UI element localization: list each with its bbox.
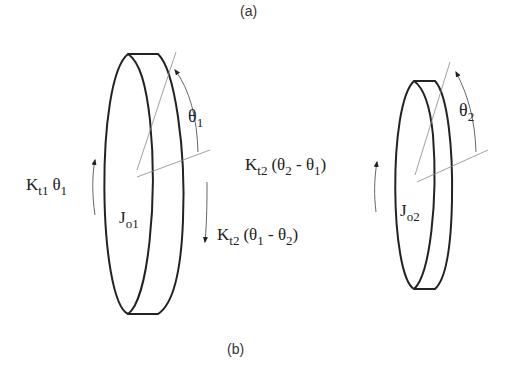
disk-1: θ1 Jo1 Kt1θ1 Kt2(θ1 - θ2) xyxy=(26,52,298,314)
caption-b: (b) xyxy=(227,341,244,357)
disk-1-rim xyxy=(128,54,183,314)
two-disk-torsion-diagram: (a) θ1 Jo1 Kt1θ1 Kt2(θ1 - θ2) θ2 Jo2 Kt2… xyxy=(0,0,506,372)
disk-2-front-face xyxy=(395,81,434,289)
torque-label-kt2-theta2-minus-theta1: Kt2(θ2 - θ1) xyxy=(245,155,326,178)
disk-2-inertia-label: Jo2 xyxy=(400,201,420,224)
torque-arrow-kt1 xyxy=(93,160,95,215)
disk-1-reference-line xyxy=(137,150,210,177)
torque-label-kt1-theta1: Kt1θ1 xyxy=(26,175,67,198)
disk-2-rim xyxy=(414,81,452,289)
disk-2: θ2 Jo2 Kt2(θ2 - θ1) xyxy=(245,62,488,289)
disk-1-radial-line xyxy=(137,52,176,170)
torque-label-kt2-theta1-minus-theta2: Kt2(θ1 - θ2) xyxy=(217,225,298,248)
disk-2-radial-line xyxy=(415,62,450,175)
disk-1-inertia-label: Jo1 xyxy=(119,208,139,231)
disk-1-front-face xyxy=(104,54,152,314)
torque-arrow-kt2-disk1 xyxy=(205,182,207,242)
torque-arrow-kt2-disk2 xyxy=(375,162,377,212)
caption-a: (a) xyxy=(240,3,257,19)
disk-2-angle-label: θ2 xyxy=(459,100,474,124)
